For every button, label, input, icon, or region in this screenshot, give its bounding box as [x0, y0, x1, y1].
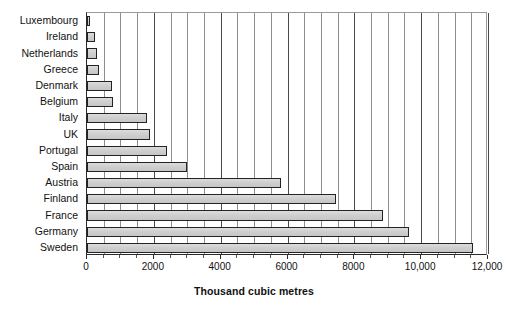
bar-germany [87, 227, 409, 237]
bar-item [87, 210, 488, 220]
category-label-germany: Germany [35, 225, 78, 237]
tick-label-2000: 2000 [142, 261, 164, 272]
category-label-spain: Spain [51, 160, 78, 172]
category-label-belgium: Belgium [40, 95, 78, 107]
bar-denmark [87, 81, 112, 91]
tick-minor [437, 255, 438, 258]
category-label-finland: Finland [44, 192, 78, 204]
bar-series [87, 13, 486, 254]
bar-spain [87, 162, 187, 172]
bar-sweden [87, 243, 473, 253]
tick-label-10000: 10,000 [405, 261, 436, 272]
tick-label-4000: 4000 [209, 261, 231, 272]
tick-minor [119, 255, 120, 258]
bar-item [87, 227, 488, 237]
bar-belgium [87, 97, 113, 107]
bar-item [87, 48, 488, 58]
category-label-portugal: Portugal [39, 144, 78, 156]
tick-minor [470, 255, 471, 258]
tick-major [153, 255, 154, 259]
tick-label-0: 0 [83, 261, 89, 272]
bar-item [87, 162, 488, 172]
tick-minor [387, 255, 388, 258]
category-label-sweden: Sweden [40, 241, 78, 253]
tick-minor [303, 255, 304, 258]
plot-area [86, 12, 487, 255]
category-label-greece: Greece [44, 63, 78, 75]
bar-uk [87, 129, 150, 139]
tick-major [353, 255, 354, 259]
bar-item [87, 129, 488, 139]
bar-italy [87, 113, 147, 123]
bar-item [87, 243, 488, 253]
tick-minor [170, 255, 171, 258]
value-axis-ticks: 0200040006000800010,00012,000 [86, 255, 487, 277]
bar-item [87, 97, 488, 107]
tick-label-8000: 8000 [342, 261, 364, 272]
tick-minor [103, 255, 104, 258]
category-label-luxembourg: Luxembourg [20, 14, 78, 26]
tick-minor [337, 255, 338, 258]
tick-minor [454, 255, 455, 258]
tick-major [287, 255, 288, 259]
bar-austria [87, 178, 281, 188]
tick-minor [270, 255, 271, 258]
bar-item [87, 32, 488, 42]
bar-portugal [87, 146, 167, 156]
bar-netherlands [87, 48, 97, 58]
bar-greece [87, 65, 99, 75]
tick-label-6000: 6000 [275, 261, 297, 272]
bar-item [87, 194, 488, 204]
bar-item [87, 146, 488, 156]
category-label-netherlands: Netherlands [21, 47, 78, 59]
category-label-uk: UK [63, 128, 78, 140]
bar-finland [87, 194, 336, 204]
tick-major [420, 255, 421, 259]
category-label-denmark: Denmark [35, 79, 78, 91]
tick-major [220, 255, 221, 259]
bar-luxembourg [87, 16, 90, 26]
category-label-france: France [45, 209, 78, 221]
tick-minor [136, 255, 137, 258]
tick-minor [186, 255, 187, 258]
category-axis-labels: LuxembourgIrelandNetherlandsGreeceDenmar… [0, 12, 82, 255]
category-label-ireland: Ireland [46, 30, 78, 42]
tick-minor [320, 255, 321, 258]
category-label-italy: Italy [59, 111, 78, 123]
bar-chart: LuxembourgIrelandNetherlandsGreeceDenmar… [0, 0, 508, 310]
bar-item [87, 81, 488, 91]
tick-minor [370, 255, 371, 258]
tick-major [86, 255, 87, 259]
tick-minor [236, 255, 237, 258]
bar-france [87, 210, 383, 220]
bar-item [87, 65, 488, 75]
bar-item [87, 113, 488, 123]
bar-item [87, 16, 488, 26]
x-axis-title: Thousand cubic metres [0, 285, 508, 297]
tick-major [487, 255, 488, 259]
tick-minor [253, 255, 254, 258]
bar-item [87, 178, 488, 188]
tick-minor [403, 255, 404, 258]
gridline-major [488, 13, 489, 254]
tick-label-12000: 12,000 [472, 261, 503, 272]
tick-minor [203, 255, 204, 258]
category-label-austria: Austria [45, 176, 78, 188]
bar-ireland [87, 32, 95, 42]
